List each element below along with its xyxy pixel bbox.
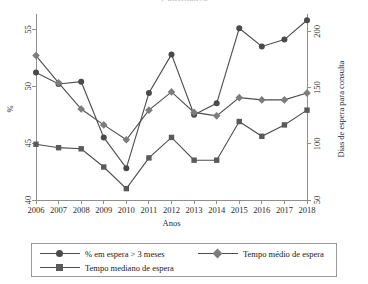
data-point [78,146,83,151]
data-point [282,122,287,127]
data-point [124,186,129,191]
data-point [281,37,287,43]
data-point [146,155,151,160]
y-axis-right-tick-label: 100 [312,137,322,150]
chart-legend: % em espera > 3 mesesTempo médio de espe… [31,243,337,277]
data-point [78,79,84,85]
y-axis-left-tick-label: 40 [23,196,33,205]
series-line [36,56,307,140]
x-axis-title: Anos [163,218,181,228]
x-axis-tick-label: 2009 [95,205,112,215]
legend-item-label: Tempo médio de espera [243,249,324,259]
data-point [101,134,107,140]
data-point [56,145,61,150]
x-axis-tick-label: 2008 [73,205,90,215]
legend-square-icon [40,262,80,273]
x-axis-tick-label: 2017 [276,205,293,215]
x-axis-tick-label: 2010 [118,205,135,215]
legend-diamond-icon [198,248,238,259]
data-point [303,89,311,97]
x-axis-tick-label: 2012 [163,205,180,215]
y-axis-left-tick-label: 50 [23,82,33,91]
data-point [259,43,265,49]
data-point [33,142,38,147]
data-point [236,25,242,31]
data-point [259,134,264,139]
data-point [100,121,108,129]
data-point [304,107,309,112]
x-axis-tick-label: 2013 [186,205,203,215]
y-axis-right-tick-label: 200 [312,25,322,38]
legend-item: Tempo mediano de espera [40,262,174,273]
legend-item-label: % em espera > 3 meses [85,249,165,259]
x-axis-tick-label: 2015 [231,205,248,215]
y-axis-right-tick-label: 150 [312,81,322,94]
data-point [169,135,174,140]
data-point [304,17,310,23]
x-axis-tick-label: 2007 [50,205,67,215]
data-point [101,164,106,169]
chart-container: y alternativa 40455055501001502002006200… [0,0,368,284]
legend-circle-icon [40,248,80,259]
data-point [169,51,175,57]
data-point [258,96,266,104]
y-axis-right-title: Dias de espera para consulta [336,60,346,157]
series-diamond [32,52,311,144]
x-axis-tick-label: 2014 [208,205,226,215]
x-axis-tick-label: 2006 [28,205,45,215]
legend-item-label: Tempo mediano de espera [85,263,174,273]
data-point [214,157,219,162]
y-axis-left-tick-label: 45 [23,139,33,148]
data-point [123,165,129,171]
data-point [33,70,39,76]
series-square [33,107,309,191]
data-point [237,119,242,124]
data-point [191,157,196,162]
series-line [36,110,307,188]
x-axis-tick-label: 2011 [141,205,158,215]
x-axis-tick-label: 2016 [253,205,270,215]
y-axis-left-title: % [5,105,15,112]
legend-item: % em espera > 3 meses [40,248,165,259]
y-axis-right-tick-label: 50 [312,196,322,205]
x-axis-tick-label: 2018 [299,205,316,215]
legend-item: Tempo médio de espera [198,248,324,259]
chart-plot-area: 4045505550100150200200620072008200920102… [0,0,368,284]
data-point [281,96,289,104]
data-point [214,100,220,106]
data-point [146,90,152,96]
y-axis-left-tick-label: 55 [23,25,33,34]
